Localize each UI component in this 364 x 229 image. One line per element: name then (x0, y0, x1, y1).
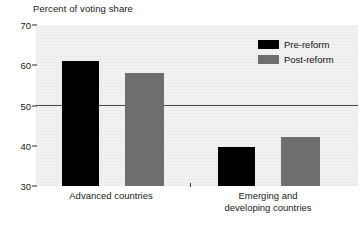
category-label: Advanced countries (21, 190, 201, 202)
category-label: Emerging anddeveloping countries (178, 190, 358, 213)
y-tick-mark (32, 186, 37, 187)
legend-label-pre-reform: Pre-reform (284, 39, 329, 50)
y-tick-mark (32, 25, 37, 26)
legend-swatch-post-reform (258, 55, 279, 64)
legend-item-post-reform: Post-reform (258, 53, 334, 66)
bar-pre-reform (62, 61, 99, 186)
chart-title: Percent of voting share (33, 3, 133, 14)
y-tick-label: 70 (9, 20, 31, 31)
legend-label-post-reform: Post-reform (284, 54, 334, 65)
category-label-line: Advanced countries (21, 190, 201, 202)
y-tick-label: 60 (9, 60, 31, 71)
y-tick-mark (32, 145, 37, 146)
legend-swatch-pre-reform (258, 40, 279, 49)
bar-post-reform (125, 73, 164, 186)
legend-item-pre-reform: Pre-reform (258, 38, 334, 51)
category-label-line: developing countries (178, 202, 358, 214)
voting-share-bar-chart: Percent of voting share 3040506070 Advan… (0, 0, 364, 229)
bar-post-reform (281, 137, 320, 186)
y-tick-label: 50 (9, 100, 31, 111)
legend: Pre-reform Post-reform (258, 38, 334, 68)
y-tick-label: 40 (9, 140, 31, 151)
category-label-line: Emerging and (178, 190, 358, 202)
bar-pre-reform (218, 147, 255, 186)
x-axis-tick (190, 183, 191, 187)
y-tick-mark (32, 65, 37, 66)
